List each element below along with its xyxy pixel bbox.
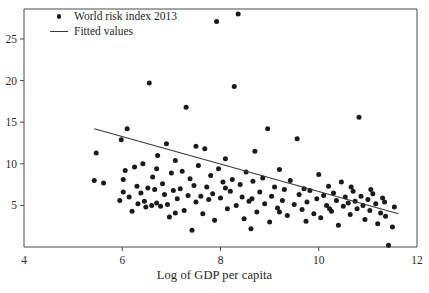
scatter-point: [238, 182, 243, 187]
scatter-point: [390, 225, 395, 230]
scatter-point: [277, 167, 282, 172]
scatter-point: [155, 153, 160, 158]
scatter-point: [300, 207, 305, 212]
scatter-point: [288, 178, 293, 183]
scatter-point: [228, 189, 233, 194]
scatter-point: [240, 195, 245, 200]
scatter-point: [280, 198, 285, 203]
scatter-point: [178, 186, 183, 191]
scatter-point: [160, 181, 165, 186]
scatter-point: [92, 178, 97, 183]
scatter-point: [204, 185, 209, 190]
x-axis-ticks: [122, 247, 319, 251]
scatter-point: [121, 190, 126, 195]
scatter-point: [196, 163, 201, 168]
scatter-point: [130, 209, 135, 214]
scatter-point: [303, 219, 308, 224]
legend-item-world-risk-index: World risk index 2013: [48, 9, 177, 24]
scatter-point: [292, 202, 297, 207]
scatter-point: [262, 201, 267, 206]
legend-label-world-risk-index: World risk index 2013: [74, 9, 177, 24]
x-tick-label: 6: [119, 254, 125, 266]
scatter-point: [230, 177, 235, 182]
scatter-point: [269, 194, 274, 199]
filled-circle-marker-icon: [48, 14, 70, 19]
scatter-point: [123, 168, 128, 173]
scatter-point: [135, 201, 140, 206]
scatter-point: [212, 218, 217, 223]
scatter-point: [132, 165, 137, 170]
scatter-point: [142, 199, 147, 204]
scatter-point: [339, 180, 344, 185]
scatter-point: [164, 141, 169, 146]
chart-legend: World risk index 2013 Fitted values: [48, 9, 177, 39]
scatter-point: [220, 180, 225, 185]
scatter-point: [149, 203, 154, 208]
scatter-point: [295, 136, 300, 141]
scatter-point: [193, 144, 198, 149]
scatter-point: [202, 146, 207, 151]
scatter-point: [119, 137, 124, 142]
scatter-point: [326, 184, 331, 189]
scatter-point: [252, 149, 257, 154]
y-tick-label: 20: [0, 75, 17, 87]
y-tick-label: 25: [0, 33, 17, 45]
scatter-point: [223, 185, 228, 190]
y-axis-ticks: [20, 39, 24, 205]
scatter-point: [373, 201, 378, 206]
scatter-point: [349, 185, 354, 190]
scatter-point: [150, 175, 155, 180]
scatter-point: [173, 158, 178, 163]
scatter-point: [198, 194, 203, 199]
scatter-point: [365, 197, 370, 202]
scatter-point: [297, 192, 302, 197]
scatter-point: [355, 206, 360, 211]
scatter-point: [171, 188, 176, 193]
scatter-point: [167, 215, 172, 220]
scatter-point: [314, 196, 319, 201]
legend-item-fitted-values: Fitted values: [48, 24, 177, 39]
scatter-point: [392, 205, 397, 210]
scatter-point: [250, 179, 255, 184]
scatter-point: [282, 187, 287, 192]
scatter-point: [154, 166, 159, 171]
scatter-point: [180, 169, 185, 174]
scatter-point: [223, 156, 228, 161]
x-tick-label: 10: [313, 254, 325, 266]
scatter-point: [267, 220, 272, 225]
scatter-point: [254, 210, 259, 215]
x-tick-label: 8: [218, 254, 224, 266]
scatter-point: [134, 184, 139, 189]
scatter-point: [382, 200, 387, 205]
scatter-point: [378, 210, 383, 215]
scatter-point: [257, 190, 262, 195]
scatter-point: [272, 185, 277, 190]
scatter-point: [383, 214, 388, 219]
scatter-point: [169, 170, 174, 175]
scatter-point: [341, 204, 346, 209]
scatter-point: [236, 11, 241, 16]
scatter-point: [357, 115, 362, 120]
scatter-point: [121, 177, 126, 182]
y-tick-label: 5: [0, 199, 17, 211]
scatter-point: [208, 173, 213, 178]
scatter-point: [127, 195, 132, 200]
scatter-point: [143, 205, 148, 210]
scatter-point: [234, 203, 239, 208]
scatter-point: [277, 210, 282, 215]
scatter-points-group: [92, 11, 397, 247]
scatter-point: [218, 195, 223, 200]
scatter-point: [190, 228, 195, 233]
scatter-point: [117, 198, 122, 203]
scatter-point: [348, 212, 353, 217]
scatter-point: [173, 210, 178, 215]
scatter-point: [158, 204, 163, 209]
scatter-point: [334, 198, 339, 203]
scatter-point: [225, 206, 230, 211]
plot-canvas: [0, 0, 429, 293]
scatter-point: [140, 161, 145, 166]
scatter-point: [210, 191, 215, 196]
scatter-point: [191, 183, 196, 188]
scatter-point: [304, 200, 309, 205]
scatter-point: [368, 187, 373, 192]
